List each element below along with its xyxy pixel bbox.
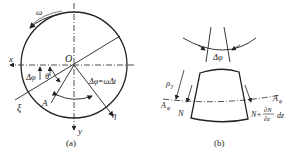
label-a-left-sub: φ [167,105,170,111]
rho-arrow-icon [176,70,184,99]
label-theta: θ [45,71,49,81]
top-arc [183,38,256,50]
eta-axis [74,65,113,116]
label-y: y [77,126,82,136]
label-delta-phi-eq: Δφ=ωΔt [88,77,117,86]
label-xi: ξ [17,102,22,114]
label-n: N [177,108,185,118]
label-n-plus: N+ [250,110,262,119]
label-origin: O [65,53,72,64]
label-a-left: A [160,101,166,110]
label-a-right: A [272,94,278,103]
label-omega: ω [36,7,42,17]
label-delta-phi-b: Δφ [212,52,223,62]
xi-axis [15,36,120,100]
label-eta: η [112,110,117,120]
beam-segment [191,69,248,122]
label-point-a: A [41,98,48,108]
label-delta-phi: Δφ [25,72,36,82]
label-x: x [8,54,13,64]
label-dn: ∂N [264,106,272,113]
figure-a: ω x y O ξ η A Δφ θ Δφ=ωΔt (a) [8,3,134,148]
label-rho: ρ [165,78,170,88]
label-dz: dz [277,111,285,120]
label-rho-sub: y [170,83,174,89]
neutral-axis [163,95,280,102]
left-radial-line [206,27,211,62]
figure-b: Δφ A φ A φ ρ y N N+ ∂N ∂z dz (b) [160,27,285,148]
right-radial-line [224,27,230,62]
caption-a: (a) [66,138,76,148]
label-dz-den: ∂z [264,115,270,122]
caption-b: (b) [214,138,225,148]
rotation-arc-icon [57,95,92,99]
theta-arc-icon [52,70,60,82]
label-a-right-sub: φ [279,98,282,104]
n-left-arrow-icon [187,85,192,102]
diagram-figure: ω x y O ξ η A Δφ θ Δφ=ωΔt (a) Δφ A φ A φ [0,0,294,154]
